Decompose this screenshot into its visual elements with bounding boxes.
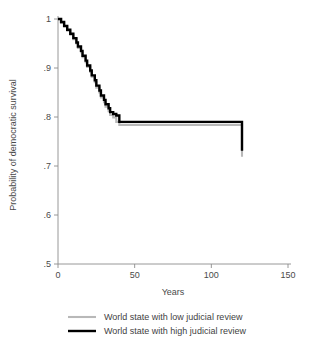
y-tick-label: .8 [43,112,51,122]
kaplan-meier-chart: .5.6.7.8.91 050100150 Probability of dem… [0,0,311,354]
y-axis-ticks: .5.6.7.8.91 [43,14,58,269]
legend-label-high: World state with high judicial review [104,326,246,336]
legend-label-low: World state with low judicial review [104,312,243,322]
data-series [58,19,242,157]
x-axis-ticks: 050100150 [55,264,295,280]
series-line-high-judicial-review [58,19,242,151]
series-line-low-judicial-review [58,19,242,157]
axes [58,16,291,264]
y-tick-label: .6 [43,210,51,220]
y-tick-label: .9 [43,63,51,73]
x-tick-label: 50 [130,270,140,280]
x-tick-label: 100 [204,270,219,280]
y-tick-label: .7 [43,161,51,171]
y-tick-label: 1 [46,14,51,24]
x-tick-label: 0 [55,270,60,280]
survival-curve-figure: .5.6.7.8.91 050100150 Probability of dem… [0,0,311,354]
y-axis-title: Probability of democratic survival [8,79,18,211]
y-tick-label: .5 [43,259,51,269]
x-axis-title: Years [162,287,185,297]
x-tick-label: 150 [280,270,295,280]
legend: World state with low judicial reviewWorl… [68,312,246,336]
